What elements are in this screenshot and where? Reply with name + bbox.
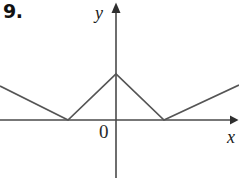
figure-container: 9. y x 0 (0, 0, 239, 178)
origin-label: 0 (99, 122, 109, 141)
y-axis-label: y (95, 4, 103, 22)
problem-number-label: 9. (3, 2, 22, 21)
graph-canvas (0, 0, 239, 178)
x-axis-label: x (227, 128, 235, 146)
y-axis-arrowhead (112, 3, 121, 14)
x-axis-arrowhead (230, 116, 239, 125)
function-curve (0, 74, 239, 120)
